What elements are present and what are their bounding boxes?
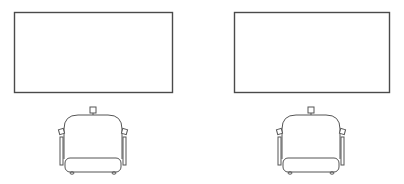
chair-headrest: [308, 107, 314, 113]
chair-armrest-left: [278, 137, 281, 165]
chair-armrest-left: [60, 137, 63, 165]
workstation-right: [235, 13, 390, 175]
chair-caster-left: [288, 172, 292, 174]
floor-plan-svg: [0, 0, 404, 184]
table-rectangle: [15, 13, 173, 93]
chair-seat: [283, 158, 339, 172]
chair-back: [282, 115, 340, 159]
chair-caster-left: [70, 172, 74, 174]
chair-arm-knob-right: [121, 128, 127, 134]
chair-caster-right: [330, 172, 334, 174]
chair-arm-knob-right: [339, 128, 345, 134]
chair-arm-knob-left: [276, 128, 282, 134]
chair-seat: [65, 158, 121, 172]
chair-caster-right: [112, 172, 116, 174]
chair-arm-knob-left: [58, 128, 64, 134]
chair-back: [64, 115, 122, 159]
chair-icon: [276, 107, 345, 174]
chair-icon: [58, 107, 127, 174]
chair-armrest-right: [341, 137, 344, 165]
table-rectangle: [235, 13, 390, 93]
chair-headrest: [90, 107, 96, 113]
floor-plan-diagram: [0, 0, 404, 184]
chair-armrest-right: [123, 137, 126, 165]
workstation-left: [15, 13, 173, 175]
